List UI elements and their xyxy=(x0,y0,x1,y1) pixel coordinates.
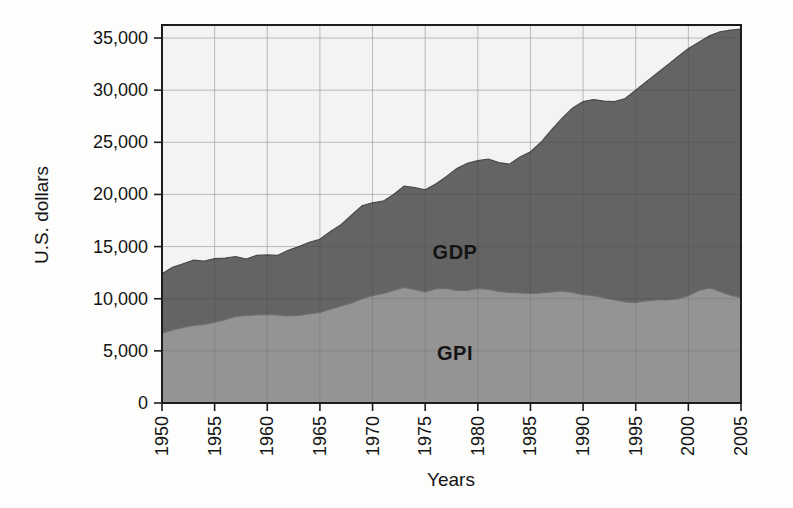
series-label-gdp: GDP xyxy=(433,241,478,263)
x-tick-label: 2005 xyxy=(731,416,751,456)
x-tick-label: 1990 xyxy=(573,416,593,456)
x-tick-label: 1965 xyxy=(310,416,330,456)
x-tick-label: 1980 xyxy=(468,416,488,456)
y-tick-label: 35,000 xyxy=(93,28,148,48)
x-tick-label: 2000 xyxy=(678,416,698,456)
y-tick-label: 20,000 xyxy=(93,184,148,204)
x-tick-label: 1995 xyxy=(626,416,646,456)
y-tick-label: 15,000 xyxy=(93,237,148,257)
x-tick-label: 1950 xyxy=(152,416,172,456)
y-tick-label: 30,000 xyxy=(93,80,148,100)
y-tick-label: 25,000 xyxy=(93,132,148,152)
x-tick-label: 1955 xyxy=(205,416,225,456)
x-tick-label: 1975 xyxy=(415,416,435,456)
gdp-gpi-area-chart: 05,00010,00015,00020,00025,00030,00035,0… xyxy=(0,0,793,508)
x-axis-title: Years xyxy=(427,469,475,490)
y-tick-label: 5,000 xyxy=(103,341,148,361)
x-tick-label: 1960 xyxy=(257,416,277,456)
y-tick-label: 10,000 xyxy=(93,289,148,309)
x-tick-label: 1985 xyxy=(520,416,540,456)
y-axis-title: U.S. dollars xyxy=(31,166,52,264)
x-tick-label: 1970 xyxy=(363,416,383,456)
figure-page: 05,00010,00015,00020,00025,00030,00035,0… xyxy=(0,0,793,508)
series-label-gpi: GPI xyxy=(437,342,473,364)
y-tick-label: 0 xyxy=(138,393,148,413)
